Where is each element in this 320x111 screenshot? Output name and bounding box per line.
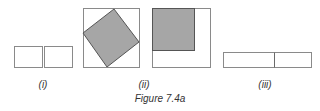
panel-ii-b-shapes bbox=[153, 9, 211, 68]
panel-i-rect-left bbox=[15, 47, 43, 68]
panel-iii-long-rect bbox=[224, 53, 312, 68]
panel-i-label: (i) bbox=[39, 79, 48, 90]
panel-iii-shapes bbox=[224, 53, 312, 68]
panel-ii-b-shaded-square bbox=[153, 9, 195, 51]
panel-ii-tilted-shaded-square bbox=[83, 9, 139, 67]
panel-ii-shapes bbox=[83, 9, 140, 68]
figure-caption: Figure 7.4a bbox=[135, 93, 186, 104]
panel-i-shapes bbox=[15, 47, 73, 68]
panel-ii-label: (ii) bbox=[138, 79, 149, 90]
panel-iii-label: (iii) bbox=[258, 79, 271, 90]
panel-i-rect-right bbox=[45, 47, 73, 68]
